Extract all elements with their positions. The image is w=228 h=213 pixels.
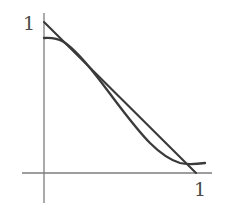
y-axis-tick-label-1: 1 xyxy=(23,14,35,33)
plot-figure: 1 1 xyxy=(0,0,228,213)
x-axis-tick-label-1: 1 xyxy=(194,180,206,199)
